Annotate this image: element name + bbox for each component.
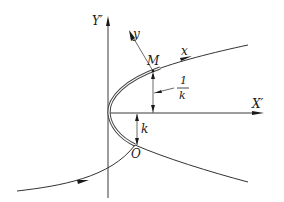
X-prime-arrowhead bbox=[252, 111, 264, 115]
label-curvature-k: k bbox=[141, 122, 148, 136]
parabola-lower-branch bbox=[135, 145, 248, 182]
label-Y-prime: Y′ bbox=[92, 14, 103, 28]
label-point-O: O bbox=[131, 147, 141, 161]
curvature-dim-arrow-top bbox=[135, 114, 139, 121]
point-M bbox=[152, 70, 155, 73]
label-local-y: y bbox=[132, 27, 140, 41]
diagram-svg: Y′ X′ y x M O k 1 k bbox=[0, 0, 284, 202]
radius-leader-arrow bbox=[155, 90, 162, 93]
incoming-direction-arrow bbox=[77, 180, 89, 184]
radius-dim-arrow-bottom bbox=[151, 105, 155, 112]
label-radius-denominator: k bbox=[179, 89, 186, 102]
label-X-prime: X′ bbox=[251, 97, 264, 111]
parabola-upper-branch bbox=[153, 45, 248, 71]
incoming-trajectory bbox=[17, 145, 135, 191]
Y-prime-arrowhead bbox=[106, 16, 110, 26]
curvature-dim-arrow-bottom bbox=[135, 138, 139, 145]
label-point-M: M bbox=[146, 54, 160, 68]
diagram-canvas: Y′ X′ y x M O k 1 k bbox=[0, 0, 284, 202]
label-radius-numerator: 1 bbox=[180, 74, 187, 87]
radius-dim-arrow-top bbox=[151, 72, 155, 79]
label-local-x: x bbox=[181, 44, 188, 58]
